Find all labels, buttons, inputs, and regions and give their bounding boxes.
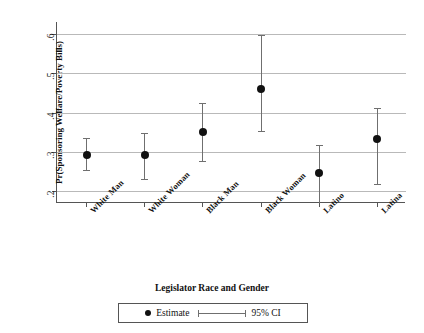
x-axis-tick bbox=[202, 202, 203, 207]
estimate-point bbox=[257, 85, 265, 93]
confidence-interval-cap bbox=[199, 103, 206, 104]
x-axis-tick-label: Black Man bbox=[204, 179, 241, 216]
x-axis-tick-label: White Man bbox=[88, 178, 126, 216]
estimate-point bbox=[315, 169, 323, 177]
confidence-interval-cap bbox=[374, 184, 381, 185]
x-axis-tick bbox=[86, 202, 87, 207]
x-axis-tick bbox=[261, 202, 262, 207]
confidence-interval-cap bbox=[83, 170, 90, 171]
gridline bbox=[57, 73, 406, 74]
confidence-interval-line bbox=[261, 35, 262, 131]
gridline bbox=[57, 113, 406, 114]
y-axis-tick-label: .6 bbox=[47, 33, 56, 49]
estimate-point bbox=[83, 151, 91, 159]
chart-legend: Estimate 95% CI bbox=[118, 303, 308, 323]
estimate-point bbox=[373, 135, 381, 143]
confidence-interval-cap bbox=[83, 138, 90, 139]
chart-figure: Pr(Sponsoring Welfare/Poverty Bills) .2.… bbox=[0, 0, 424, 333]
legend-item-ci: 95% CI bbox=[198, 308, 280, 318]
ci-errorbar-icon bbox=[198, 310, 246, 317]
plot-area: Pr(Sponsoring Welfare/Poverty Bills) .2.… bbox=[56, 22, 405, 203]
x-axis-title: Legislator Race and Gender bbox=[0, 283, 424, 293]
x-axis-tick-label: Latina bbox=[379, 190, 404, 215]
legend-estimate-label: Estimate bbox=[156, 308, 189, 318]
x-axis-tick bbox=[377, 202, 378, 207]
x-axis-tick-label: Latino bbox=[321, 190, 346, 215]
gridline bbox=[57, 34, 406, 35]
x-axis-tick-label: White Woman bbox=[146, 169, 192, 215]
confidence-interval-line bbox=[377, 108, 378, 184]
legend-ci-label: 95% CI bbox=[251, 308, 280, 318]
confidence-interval-cap bbox=[141, 179, 148, 180]
confidence-interval-cap bbox=[199, 161, 206, 162]
y-axis-tick-label: .2 bbox=[47, 191, 56, 207]
confidence-interval-cap bbox=[374, 108, 381, 109]
confidence-interval-cap bbox=[316, 145, 323, 146]
estimate-dot-icon bbox=[145, 310, 151, 316]
gridline bbox=[57, 152, 406, 153]
y-axis-tick-label: .4 bbox=[47, 112, 56, 128]
x-axis-tick-label: Black Woman bbox=[263, 170, 308, 215]
legend-item-estimate: Estimate bbox=[145, 308, 189, 318]
confidence-interval-cap bbox=[258, 131, 265, 132]
y-axis-tick-label: .5 bbox=[47, 73, 56, 89]
confidence-interval-cap bbox=[141, 133, 148, 134]
x-axis-tick bbox=[144, 202, 145, 207]
y-axis-tick-label: .3 bbox=[47, 151, 56, 167]
estimate-point bbox=[199, 128, 207, 136]
confidence-interval-cap bbox=[258, 35, 265, 36]
estimate-point bbox=[141, 151, 149, 159]
